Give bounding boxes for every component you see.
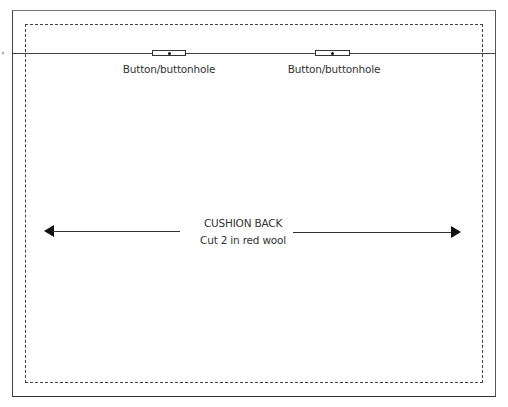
grain-line-right <box>293 232 453 233</box>
buttonhole-marker-right <box>315 50 350 56</box>
piece-title: CUSHION BACK <box>200 215 286 232</box>
fold-marker <box>2 52 4 54</box>
arrow-right-icon <box>451 226 461 238</box>
buttonhole-label-left: Button/buttonhole <box>123 63 215 75</box>
button-dot-icon <box>331 52 334 55</box>
buttonhole-marker-left <box>152 50 186 56</box>
button-dot-icon <box>168 52 171 55</box>
piece-label: CUSHION BACK Cut 2 in red wool <box>200 215 286 249</box>
grain-line-left <box>52 231 180 232</box>
seam-line-dashed <box>25 24 483 383</box>
fold-line <box>12 53 496 54</box>
cut-instruction: Cut 2 in red wool <box>200 232 286 249</box>
buttonhole-label-right: Button/buttonhole <box>288 63 380 75</box>
